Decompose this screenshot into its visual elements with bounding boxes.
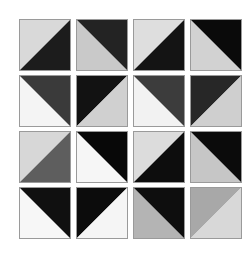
tile-r1c2 (76, 19, 128, 71)
tile-diagonal-graphic (134, 76, 184, 126)
tile-grid (19, 19, 242, 239)
tile-diagonal-graphic (77, 20, 127, 70)
tile-diagonal-graphic (191, 188, 241, 238)
tile-diagonal-graphic (134, 20, 184, 70)
tile-r2c4 (190, 75, 242, 127)
tile-r3c4 (190, 131, 242, 183)
tile-diagonal-graphic (134, 188, 184, 238)
tile-r3c2 (76, 131, 128, 183)
tile-r1c3 (133, 19, 185, 71)
tile-diagonal-graphic (77, 188, 127, 238)
tile-r3c1 (19, 131, 71, 183)
tile-diagonal-graphic (77, 132, 127, 182)
tile-diagonal-graphic (191, 76, 241, 126)
tile-r2c3 (133, 75, 185, 127)
tile-diagonal-graphic (77, 76, 127, 126)
tile-r4c4 (190, 187, 242, 239)
tile-diagonal-graphic (191, 20, 241, 70)
tile-r2c1 (19, 75, 71, 127)
tile-r4c2 (76, 187, 128, 239)
tile-r1c1 (19, 19, 71, 71)
tile-diagonal-graphic (134, 132, 184, 182)
tile-diagonal-graphic (20, 132, 70, 182)
tile-diagonal-graphic (20, 76, 70, 126)
tile-r4c1 (19, 187, 71, 239)
tile-diagonal-graphic (20, 188, 70, 238)
tile-r4c3 (133, 187, 185, 239)
tile-r1c4 (190, 19, 242, 71)
tile-diagonal-graphic (20, 20, 70, 70)
tile-r3c3 (133, 131, 185, 183)
tile-diagonal-graphic (191, 132, 241, 182)
tile-r2c2 (76, 75, 128, 127)
